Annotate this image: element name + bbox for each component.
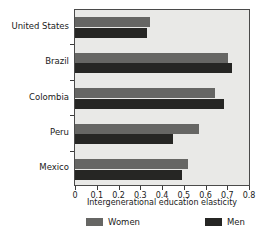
x-axis-tick [119, 186, 120, 190]
bar-women-colombia [75, 88, 215, 98]
bar-men-peru [75, 134, 173, 144]
category-label-mexico: Mexico [0, 163, 69, 172]
chart-figure: United States Brazil Colombia Peru Mexic… [0, 0, 267, 240]
x-axis-tick [162, 186, 163, 190]
bar-women-united-states [75, 17, 150, 27]
bar-women-mexico [75, 159, 188, 169]
x-axis-tick [227, 186, 228, 190]
x-axis-tick [184, 186, 185, 190]
y-axis-tick [70, 151, 74, 152]
legend-label-women: Women [108, 218, 140, 227]
bar-men-brazil [75, 63, 232, 73]
legend-item-men: Men [205, 216, 245, 228]
legend-label-men: Men [227, 218, 245, 227]
bar-men-united-states [75, 28, 147, 38]
bar-men-mexico [75, 170, 182, 180]
y-axis-tick [70, 115, 74, 116]
category-label-peru: Peru [0, 128, 69, 137]
x-axis-title: Intergenerational education elasticity [74, 198, 250, 208]
x-axis-tick [140, 186, 141, 190]
x-axis: 00.10.20.30.40.50.60.70.8 [74, 186, 250, 191]
legend-swatch-women-icon [86, 218, 103, 226]
category-label-colombia: Colombia [0, 93, 69, 102]
legend-swatch-men-icon [205, 218, 222, 226]
x-axis-tick [249, 186, 250, 190]
y-axis-tick [70, 80, 74, 81]
category-label-united-states: United States [0, 22, 69, 31]
x-axis-tick [206, 186, 207, 190]
x-axis-tick [75, 186, 76, 190]
plot-area [74, 9, 250, 186]
bar-women-brazil [75, 53, 228, 63]
bar-women-peru [75, 124, 199, 134]
category-label-brazil: Brazil [0, 57, 69, 66]
chart-legend: Women Men [74, 216, 250, 228]
y-axis-tick [70, 44, 74, 45]
x-axis-tick [97, 186, 98, 190]
bar-men-colombia [75, 99, 224, 109]
legend-item-women: Women [86, 216, 140, 228]
